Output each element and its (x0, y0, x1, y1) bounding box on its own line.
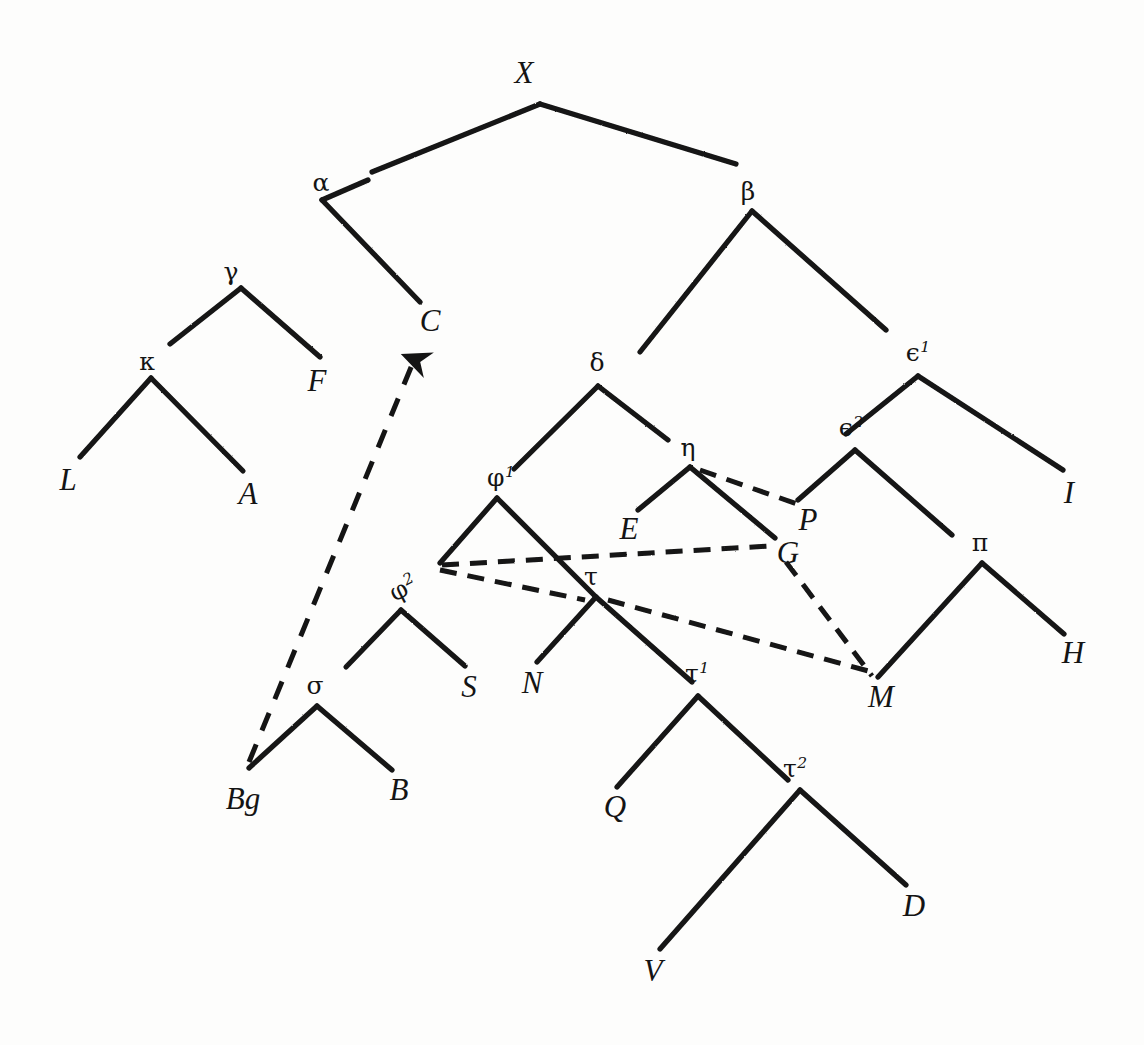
node-G[interactable]: G (777, 537, 799, 568)
node-tau1[interactable]: τ1 (685, 661, 709, 686)
node-delta[interactable]: δ (589, 350, 604, 375)
node-tau-label: τ (584, 562, 598, 591)
stemma-branch-16 (798, 450, 855, 500)
node-N-label: N (522, 665, 543, 700)
node-eta-label: η (681, 433, 696, 462)
stemma-branch-20 (440, 498, 497, 563)
node-I-label: I (1064, 475, 1074, 510)
node-Q-label: Q (604, 789, 626, 824)
node-eps2[interactable]: ϵ2 (839, 415, 863, 440)
node-S-label: S (461, 669, 477, 704)
contamination-arrow (249, 360, 414, 762)
node-delta-label: δ (589, 348, 604, 377)
node-Q[interactable]: Q (604, 791, 626, 822)
node-F[interactable]: F (308, 365, 327, 396)
node-alpha[interactable]: α (313, 170, 330, 195)
node-sigma[interactable]: σ (306, 673, 323, 698)
node-X-label: X (515, 55, 534, 90)
stemma-branch-21 (497, 498, 596, 597)
node-pi[interactable]: π (972, 530, 988, 555)
stemma-diagram: XαβγCκFδϵ1ϵ2LAηφ1IEPGπφ2τHSNτ1MσBgBτ2QDV (0, 0, 1144, 1045)
node-eps1-label: ϵ (906, 338, 920, 367)
contamination-arrow-group (249, 360, 414, 762)
stemma-branch-17 (855, 450, 952, 535)
node-E[interactable]: E (620, 513, 639, 544)
node-A-label: A (239, 476, 258, 511)
node-C-label: C (420, 303, 441, 338)
stemma-branch-13 (690, 467, 775, 538)
stemma-branch-15 (918, 376, 1063, 470)
stemma-branch-10 (514, 386, 598, 469)
node-beta[interactable]: β (741, 179, 755, 204)
node-eps1[interactable]: ϵ1 (906, 340, 930, 365)
node-D-label: D (903, 888, 925, 923)
node-G-label: G (777, 535, 799, 570)
node-Bg[interactable]: Bg (226, 783, 260, 814)
node-C[interactable]: C (420, 305, 441, 336)
stemma-branch-12 (638, 467, 690, 510)
stemma-branch-8 (640, 211, 752, 352)
node-B[interactable]: B (390, 774, 409, 805)
node-tau2[interactable]: τ2 (783, 756, 807, 781)
stemma-branch-29 (698, 696, 788, 780)
stemma-branch-23 (401, 610, 465, 666)
stemma-branch-9 (752, 211, 886, 330)
node-D[interactable]: D (903, 890, 925, 921)
stemma-branch-7 (151, 378, 243, 471)
node-S[interactable]: S (461, 671, 477, 702)
node-eps2-superscript: 2 (853, 412, 863, 430)
node-eps1-superscript: 1 (920, 337, 930, 355)
node-Bg-label: Bg (226, 781, 260, 816)
node-N[interactable]: N (522, 667, 543, 698)
node-A[interactable]: A (239, 478, 258, 509)
node-H-label: H (1062, 635, 1084, 670)
stemma-branch-30 (660, 790, 800, 949)
node-P[interactable]: P (799, 504, 818, 535)
stemma-branch-25 (317, 706, 392, 770)
stemma-branch-0 (372, 104, 540, 172)
node-M[interactable]: M (868, 681, 894, 712)
node-V-label: V (644, 953, 663, 988)
node-H[interactable]: H (1062, 637, 1084, 668)
stemma-branch-22 (346, 610, 401, 667)
node-phi1-label: φ (487, 463, 505, 492)
solid-edge-group (80, 104, 1064, 949)
stemma-branch-28 (617, 696, 698, 787)
node-M-label: M (868, 679, 894, 714)
node-B-label: B (390, 772, 409, 807)
contamination-line-2 (440, 570, 585, 600)
node-F-label: F (308, 363, 327, 398)
contamination-line-1 (442, 546, 770, 565)
node-tau1-label: τ (685, 659, 699, 688)
stemma-branch-11 (598, 386, 668, 440)
node-V[interactable]: V (644, 955, 663, 986)
stemma-branch-4 (170, 288, 241, 344)
stemma-branch-5 (241, 288, 320, 357)
node-beta-label: β (741, 177, 755, 206)
stemma-branch-19 (982, 563, 1064, 634)
stemma-branch-18 (878, 563, 982, 677)
node-eps2-label: ϵ (839, 413, 853, 442)
stemma-branch-26 (537, 597, 596, 662)
node-L-label: L (59, 462, 76, 497)
stemma-branch-6 (80, 378, 151, 457)
node-tau2-superscript: 2 (797, 753, 807, 771)
node-gamma-label: γ (224, 257, 239, 286)
node-E-label: E (620, 511, 639, 546)
node-eta[interactable]: η (681, 435, 696, 460)
node-sigma-label: σ (306, 671, 323, 700)
node-L[interactable]: L (59, 464, 76, 495)
stemma-branch-24 (249, 706, 317, 768)
stemma-canvas (0, 0, 1144, 1045)
node-X[interactable]: X (515, 57, 534, 88)
stemma-branch-3 (322, 200, 420, 302)
stemma-branch-31 (800, 790, 906, 885)
node-phi1[interactable]: φ1 (487, 465, 515, 490)
node-gamma[interactable]: γ (224, 259, 239, 284)
node-tau[interactable]: τ (584, 564, 598, 589)
node-I[interactable]: I (1064, 477, 1074, 508)
node-P-label: P (799, 502, 818, 537)
node-kappa[interactable]: κ (139, 349, 155, 374)
node-tau1-superscript: 1 (699, 658, 709, 676)
node-phi1-superscript: 1 (505, 462, 515, 480)
